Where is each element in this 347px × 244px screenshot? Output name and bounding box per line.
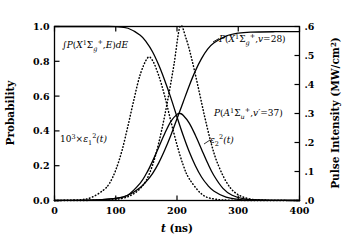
y2-tick-label: .0: [305, 195, 315, 206]
x-tick-label: 200: [167, 205, 187, 216]
xv28-paren-close: ): [282, 34, 286, 44]
y-tick-label: 0.0: [33, 195, 50, 206]
y-axis-label: Probability: [4, 80, 16, 146]
eps1-times: ×: [76, 134, 84, 144]
av37-paren-close: ): [279, 108, 283, 118]
x-tick-label: 0: [51, 205, 58, 216]
eps2-t: (t): [223, 135, 234, 145]
y-tick-label: 0.6: [33, 91, 50, 102]
av37-eq: =37: [260, 108, 279, 118]
y2-tick-label: .1: [305, 166, 315, 177]
xv28-eq: =28: [263, 34, 282, 44]
y2-axis-label: Pulse Intensity (MW/cm2): [329, 37, 342, 189]
y2-tick-label: .2: [305, 137, 315, 148]
x-tick-label: 100: [106, 205, 126, 216]
y2-tick-label: .5: [305, 50, 315, 61]
y2-tick-label: .4: [305, 79, 315, 90]
y2-label-main: Pulse Intensity (MW/cm: [329, 47, 341, 189]
y-tick-label: 0.8: [33, 56, 50, 67]
y2-label-close: ): [329, 37, 341, 42]
integral-de-e: E: [121, 40, 129, 50]
x-axis-label: t (ns): [161, 222, 193, 234]
x-tick-label: 400: [290, 205, 310, 216]
eps1-t: (t): [96, 134, 107, 144]
y-tick-label: 0.2: [33, 160, 50, 171]
x-tick-label: 300: [228, 205, 248, 216]
eps1-ten: 10: [60, 134, 72, 144]
scientific-plot: 01002003004000.00.20.40.60.81.0.0.1.2.3.…: [0, 0, 347, 244]
x-axis-label-unit: (ns): [166, 222, 193, 234]
y-tick-label: 1.0: [33, 21, 50, 32]
y-tick-label: 0.4: [33, 125, 50, 136]
y2-tick-label: .3: [305, 108, 315, 119]
y2-tick-label: .6: [305, 21, 315, 32]
svg-text:Pulse Intensity (MW/cm2): Pulse Intensity (MW/cm2): [329, 37, 342, 189]
figure-container: 01002003004000.00.20.40.60.81.0.0.1.2.3.…: [0, 0, 347, 244]
